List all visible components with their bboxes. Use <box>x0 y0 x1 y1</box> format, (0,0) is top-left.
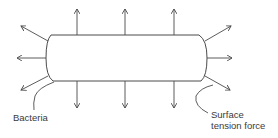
force-arrow-right-up <box>205 26 231 41</box>
surface-tension-label-line2: tension force <box>211 120 265 131</box>
surface-tension-label-line1: Surface <box>211 109 244 120</box>
force-arrow-right-down <box>205 76 230 90</box>
force-arrow-left-down <box>21 76 48 90</box>
force-arrow-left-up <box>21 26 48 41</box>
bacteria-leader-line <box>34 82 54 110</box>
bacterium-body <box>46 35 207 81</box>
bacteria-label: Bacteria <box>13 112 48 123</box>
